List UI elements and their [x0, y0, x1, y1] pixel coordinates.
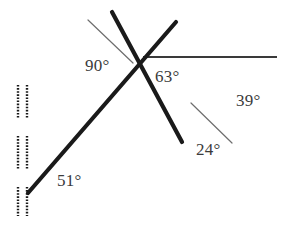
thin-ray-lower-right: [191, 103, 232, 143]
geometry-figure: 90° 63° 39° 24° 51°: [0, 0, 286, 233]
angle-label-51: 51°: [57, 172, 81, 189]
angle-label-24: 24°: [196, 141, 220, 158]
figure-canvas: [0, 0, 286, 233]
angle-label-63: 63°: [155, 68, 179, 85]
angle-label-90: 90°: [85, 57, 109, 74]
angle-label-39: 39°: [236, 92, 260, 109]
thick-line-ascending: [28, 22, 176, 193]
